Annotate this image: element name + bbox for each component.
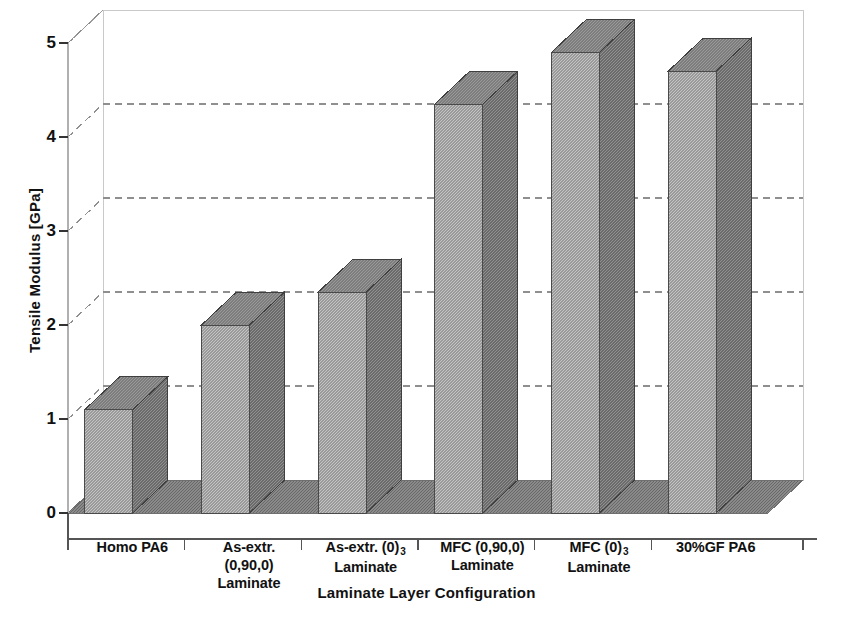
bar-column bbox=[552, 19, 635, 513]
y-tick-label: 2 bbox=[22, 315, 56, 335]
bar-column bbox=[668, 38, 751, 513]
y-tick-label: 1 bbox=[22, 409, 56, 429]
x-tick-label: 30%GF PA6 bbox=[636, 538, 796, 556]
bar-column bbox=[202, 292, 285, 513]
tensile-modulus-bar-chart: Tensile Modulus [GPa] 012345 Homo PA6As-… bbox=[0, 0, 853, 619]
y-tick-label: 5 bbox=[22, 33, 56, 53]
y-tick-label: 4 bbox=[22, 127, 56, 147]
y-tick-label: 3 bbox=[22, 221, 56, 241]
bar-column bbox=[435, 71, 518, 513]
x-tick-label-line: Laminate bbox=[519, 558, 679, 576]
bar-column bbox=[318, 259, 401, 513]
x-axis-title: Laminate Layer Configuration bbox=[0, 584, 853, 601]
x-tick-label-subscript: 3 bbox=[622, 546, 628, 557]
x-tick-label-line: 30%GF PA6 bbox=[636, 538, 796, 556]
